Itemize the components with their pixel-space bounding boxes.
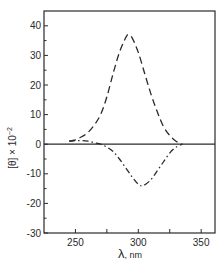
x-tick-label: 350 bbox=[193, 237, 210, 248]
dash-dot-curve bbox=[69, 141, 182, 186]
y-tick-label: 0 bbox=[35, 139, 41, 150]
cd-spectrum-chart: 403020100-10-20-30 250300350 λ, nm [θ] ×… bbox=[0, 0, 224, 265]
y-tick-label: -20 bbox=[27, 198, 42, 209]
y-tick-label: 10 bbox=[30, 109, 42, 120]
plot-border bbox=[44, 11, 215, 233]
y-axis-ticks: 403020100-10-20-30 bbox=[27, 20, 48, 238]
dashed-curve bbox=[69, 35, 182, 145]
y-tick-label: 30 bbox=[30, 50, 42, 61]
x-axis-label: λ, nm bbox=[118, 246, 142, 261]
x-axis-label-unit: , nm bbox=[124, 250, 142, 260]
y-axis-label-exp: −2 bbox=[6, 127, 13, 135]
plot-frame bbox=[44, 11, 215, 233]
y-tick-label: -30 bbox=[27, 228, 42, 239]
y-tick-label: -10 bbox=[27, 168, 42, 179]
y-tick-label: 20 bbox=[30, 80, 42, 91]
x-axis-ticks: 250300350 bbox=[67, 229, 210, 248]
y-axis-label: [θ] × 10−2 bbox=[6, 127, 18, 169]
x-tick-label: 250 bbox=[67, 237, 84, 248]
y-axis-label-main: [θ] × 10 bbox=[7, 135, 18, 169]
x-tick-label: 300 bbox=[130, 237, 147, 248]
y-tick-label: 40 bbox=[30, 20, 42, 31]
